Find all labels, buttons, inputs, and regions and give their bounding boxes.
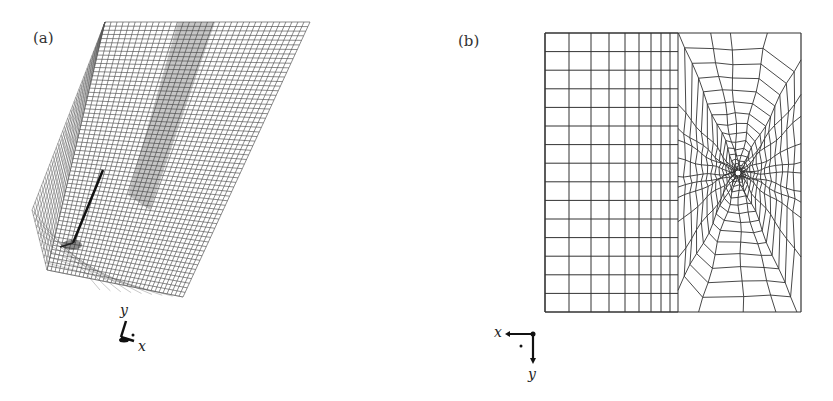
panel-b-axis-triad bbox=[0, 0, 833, 401]
x-arrowhead bbox=[505, 331, 510, 337]
z-axis-dot bbox=[520, 345, 523, 348]
panel-b-y-label: y bbox=[528, 366, 536, 382]
panel-b-x-label: x bbox=[494, 324, 502, 340]
y-arrowhead bbox=[530, 358, 536, 364]
origin-marker bbox=[531, 332, 536, 337]
